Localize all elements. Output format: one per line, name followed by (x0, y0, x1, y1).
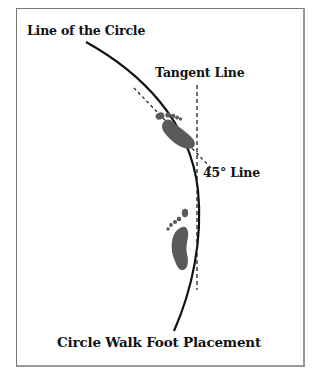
lower-foot-icon (166, 209, 188, 270)
circle-line (86, 42, 199, 331)
circle-walk-diagram (0, 0, 318, 378)
forty-five-line-label: 45° Line (203, 165, 260, 180)
upper-foot-icon (155, 111, 198, 153)
tangent-line-label: Tangent Line (155, 65, 244, 80)
diagram-caption: Circle Walk Foot Placement (0, 334, 318, 350)
circle-line-label: Line of the Circle (27, 23, 145, 38)
